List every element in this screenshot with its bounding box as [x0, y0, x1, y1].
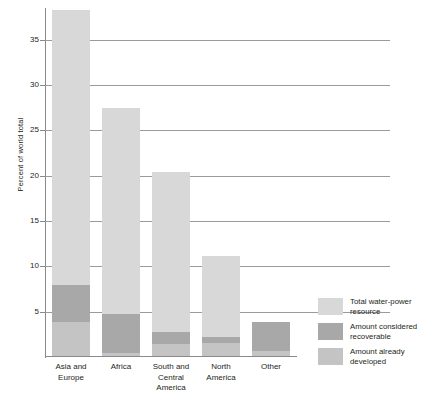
x-axis-label-4: Other: [234, 362, 308, 373]
gridline-25: [45, 130, 390, 131]
legend-item-recoverable[interactable]: Amount considered recoverable: [318, 322, 438, 346]
bar-segment-recoverable: [152, 332, 190, 344]
y-tick-10: [40, 266, 45, 267]
y-tick-25: [40, 130, 45, 131]
y-tick-30: [40, 85, 45, 86]
legend-swatch-developed: [318, 348, 343, 365]
table-row[interactable]: [52, 10, 90, 356]
bar-segment-recoverable: [102, 314, 140, 353]
bar-segment-developed: [52, 322, 90, 356]
y-axis-line: [45, 8, 46, 358]
legend-label-total: Total water-power resource: [350, 297, 439, 316]
bar-segment-developed: [252, 351, 290, 356]
table-row[interactable]: [102, 108, 140, 356]
table-row[interactable]: [252, 322, 290, 356]
bar-segment-developed: [152, 344, 190, 356]
legend-item-total[interactable]: Total water-power resource: [318, 297, 438, 321]
gridline-20: [45, 176, 390, 177]
y-tick-label-35: 35: [17, 36, 39, 44]
x-axis-baseline: [45, 356, 297, 357]
bar-segment-developed: [102, 353, 140, 356]
table-row[interactable]: [152, 172, 190, 356]
chart-legend: Total water-power resource Amount consid…: [318, 297, 438, 372]
legend-label-recoverable: Amount considered recoverable: [350, 322, 439, 341]
legend-label-developed: Amount already developed: [350, 347, 439, 366]
bar-segment-recoverable: [252, 322, 290, 351]
y-tick-35: [40, 40, 45, 41]
y-tick-label-20: 20: [17, 172, 39, 180]
chart-figure: Percent of world total 5101520253035 Asi…: [0, 0, 439, 408]
bar-segment-developed: [202, 343, 240, 356]
gridline-15: [45, 221, 390, 222]
y-tick-label-5: 5: [17, 308, 39, 316]
plot-area: 5101520253035: [45, 8, 296, 357]
y-tick-label-30: 30: [17, 81, 39, 89]
legend-item-developed[interactable]: Amount already developed: [318, 347, 438, 371]
gridline-35: [45, 40, 390, 41]
table-row[interactable]: [202, 256, 240, 356]
y-tick-15: [40, 221, 45, 222]
legend-swatch-recoverable: [318, 323, 343, 340]
y-tick-5: [40, 312, 45, 313]
bar-segment-recoverable: [52, 285, 90, 322]
legend-swatch-total: [318, 298, 343, 315]
y-tick-label-10: 10: [17, 262, 39, 270]
y-axis-title: Percent of world total: [16, 75, 25, 235]
y-tick-label-25: 25: [17, 126, 39, 134]
gridline-30: [45, 85, 390, 86]
y-tick-20: [40, 176, 45, 177]
y-tick-label-15: 15: [17, 217, 39, 225]
